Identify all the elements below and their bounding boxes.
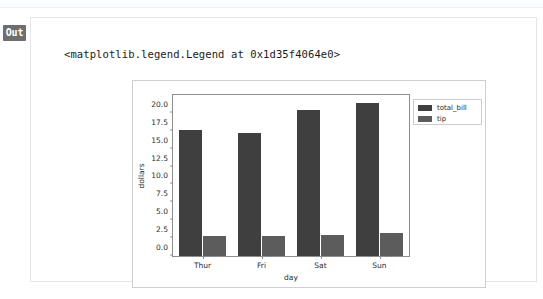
legend-swatch-icon	[418, 116, 432, 122]
bar-tip-Sun	[380, 233, 404, 256]
y-axis-tick-mark	[170, 201, 173, 202]
y-axis-tick-mark	[170, 165, 173, 166]
y-axis-tick-label: 17.5	[151, 117, 173, 126]
x-axis-tick-label: Thur	[194, 261, 211, 270]
x-axis-tick-mark	[380, 256, 381, 259]
bar-total_bill-Sun	[356, 103, 380, 256]
bar-tip-Fri	[262, 236, 286, 256]
legend-label: total_bill	[437, 104, 467, 112]
x-axis-tick-mark	[203, 256, 204, 259]
bar-tip-Thur	[203, 236, 227, 256]
x-axis-tick-mark	[321, 256, 322, 259]
x-axis-tick-mark	[262, 256, 263, 259]
chart-axes: dollars day 0.02.55.07.510.012.515.017.5…	[172, 94, 410, 257]
cell-top-spacer	[0, 0, 543, 6]
y-axis-tick-mark	[170, 237, 173, 238]
output-prompt-badge: Out	[3, 25, 26, 41]
legend-swatch-icon	[418, 105, 432, 111]
x-axis-tick-label: Sun	[372, 261, 386, 270]
y-axis-tick-label: 5.0	[156, 207, 173, 216]
legend-label: tip	[437, 115, 446, 123]
chart-plot-area	[173, 95, 409, 256]
bar-total_bill-Fri	[238, 133, 262, 256]
y-axis-tick-label: 10.0	[151, 171, 173, 180]
y-axis-tick-label: 7.5	[156, 189, 173, 198]
y-axis-tick-mark	[170, 111, 173, 112]
x-axis-tick-label: Fri	[257, 261, 266, 270]
y-axis-tick-mark	[170, 255, 173, 256]
y-axis-tick-label: 2.5	[156, 225, 173, 234]
matplotlib-figure: dollars day 0.02.55.07.510.012.515.017.5…	[132, 80, 486, 288]
bar-tip-Sat	[321, 235, 345, 256]
y-axis-tick-mark	[170, 129, 173, 130]
legend-item-total_bill: total_bill	[418, 103, 477, 112]
notebook-output-cell: Out <matplotlib.legend.Legend at 0x1d35f…	[0, 0, 543, 299]
y-axis-tick-label: 15.0	[151, 135, 173, 144]
y-axis-tick-label: 20.0	[151, 99, 173, 108]
y-axis-label: dollars	[137, 163, 146, 188]
y-axis-tick-mark	[170, 147, 173, 148]
x-axis-tick-label: Sat	[314, 261, 326, 270]
chart-legend: total_billtip	[413, 99, 482, 125]
y-axis-tick-label: 12.5	[151, 153, 173, 162]
cell-divider	[0, 7, 543, 8]
legend-item-tip: tip	[418, 114, 477, 123]
legend-repr-text: <matplotlib.legend.Legend at 0x1d35f4064…	[64, 48, 340, 60]
y-axis-tick-label: 0.0	[156, 243, 173, 252]
bar-total_bill-Sat	[297, 110, 321, 256]
y-axis-tick-mark	[170, 183, 173, 184]
output-card: <matplotlib.legend.Legend at 0x1d35f4064…	[30, 17, 537, 282]
x-axis-label: day	[284, 273, 298, 282]
bar-total_bill-Thur	[179, 130, 203, 257]
y-axis-tick-mark	[170, 219, 173, 220]
